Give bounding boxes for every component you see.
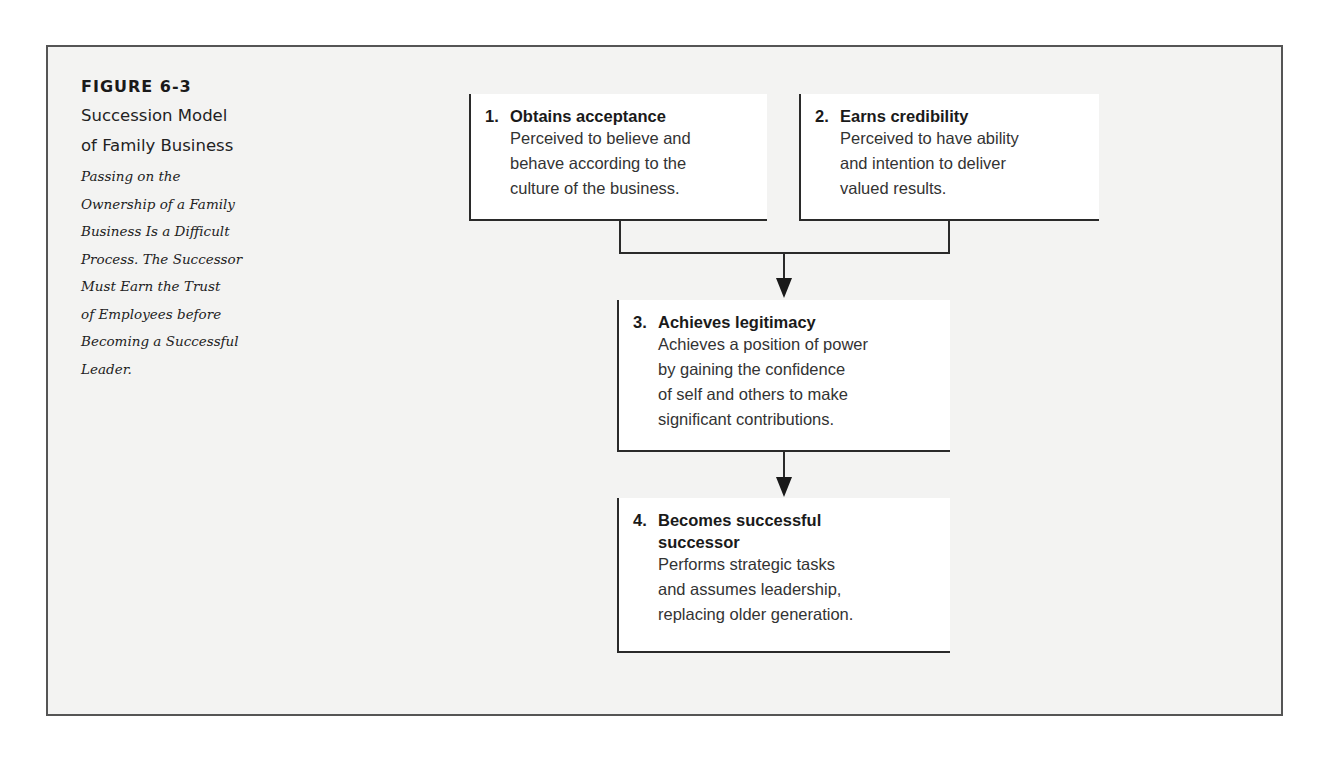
description-line: Ownership of a Family [81, 191, 281, 219]
step-title: Earns credibility [840, 106, 1089, 126]
arrow-down-icon [776, 278, 792, 298]
connector-drop-left [619, 221, 621, 254]
figure-caption: FIGURE 6-3 Succession Model of Family Bu… [81, 76, 281, 383]
step-box-4: 4. Becomes successful successor Performs… [617, 498, 950, 653]
description-line: Becoming a Successful [81, 328, 281, 356]
step-text-line: Performs strategic tasks [658, 552, 940, 577]
description-line: Leader. [81, 356, 281, 384]
step-title: Becomes successful successor [658, 510, 940, 552]
step-text: Achieves a position of power by gaining … [658, 332, 940, 432]
step-title: Obtains acceptance [510, 106, 757, 126]
description-line: of Employees before [81, 301, 281, 329]
step-text-line: and intention to deliver [840, 151, 1089, 176]
arrow-down-icon [776, 477, 792, 497]
step-text-line: Perceived to have ability [840, 126, 1089, 151]
step-text-line: by gaining the confidence [658, 357, 940, 382]
figure-description: Passing on the Ownership of a Family Bus… [81, 163, 281, 383]
step-title: Achieves legitimacy [658, 312, 940, 332]
description-line: Must Earn the Trust [81, 273, 281, 301]
step-number: 4. [633, 510, 658, 627]
figure-label: FIGURE 6-3 [81, 76, 281, 98]
step-text-line: Perceived to believe and [510, 126, 757, 151]
figure-title-line: of Family Business [81, 129, 281, 163]
step-number: 3. [633, 312, 658, 432]
step-text: Performs strategic tasks and assumes lea… [658, 552, 940, 627]
step-text-line: behave according to the [510, 151, 757, 176]
description-line: Business Is a Difficult [81, 218, 281, 246]
step-number: 1. [485, 106, 510, 201]
connector-drop-right [948, 221, 950, 254]
step-text-line: culture of the business. [510, 176, 757, 201]
step-box-3: 3. Achieves legitimacy Achieves a positi… [617, 300, 950, 452]
step-text: Perceived to have ability and intention … [840, 126, 1089, 201]
step-box-1: 1. Obtains acceptance Perceived to belie… [469, 94, 767, 221]
step-text-line: of self and others to make [658, 382, 940, 407]
step-title-line: successor [658, 532, 940, 552]
step-text-line: replacing older generation. [658, 602, 940, 627]
step-text: Perceived to believe and behave accordin… [510, 126, 757, 201]
description-line: Passing on the [81, 163, 281, 191]
figure-title: Succession Model of Family Business [81, 99, 281, 163]
figure-title-line: Succession Model [81, 99, 281, 133]
step-text-line: Achieves a position of power [658, 332, 940, 357]
arrow-stem-2 [783, 452, 785, 480]
step-text-line: valued results. [840, 176, 1089, 201]
arrow-stem-1 [783, 253, 785, 280]
step-text-line: and assumes leadership, [658, 577, 940, 602]
description-line: Process. The Successor [81, 246, 281, 274]
step-title-line: Becomes successful [658, 510, 940, 530]
step-number: 2. [815, 106, 840, 201]
step-box-2: 2. Earns credibility Perceived to have a… [799, 94, 1099, 221]
step-text-line: significant contributions. [658, 407, 940, 432]
